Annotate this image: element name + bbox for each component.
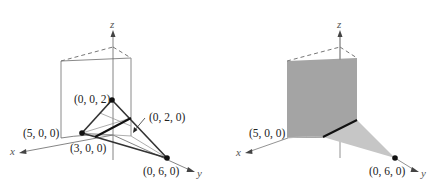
label-point-0-0-2: (0, 0, 2): [74, 94, 110, 106]
label-point-0-6-0: (0, 6, 0): [143, 166, 179, 178]
label-point-5-0-0: (5, 0, 0): [249, 128, 285, 140]
label-point-5-0-0: (5, 0, 0): [23, 128, 59, 140]
axis-label-x: x: [236, 147, 241, 158]
right-figure-3d-region: z x y (5, 0, 0) (0, 6, 0): [218, 0, 436, 189]
left-figure-3d-triangle: z x y (0, 0, 2) (0, 2, 0) (5, 0, 0) (3, …: [0, 0, 218, 189]
y-arrow-icon: [187, 167, 196, 172]
y-arrow-icon: [411, 167, 420, 172]
axis-label-y: y: [197, 168, 202, 179]
point-0-6-0: [164, 155, 170, 161]
z-arrow-icon: [338, 30, 343, 37]
right-figure-graphic: [218, 0, 436, 189]
axis-label-z: z: [110, 19, 114, 30]
x-arrow-icon: [245, 149, 253, 154]
axis-label-x: x: [10, 146, 15, 157]
label-point-0-2-0: (0, 2, 0): [149, 112, 185, 124]
label-point-3-0-0: (3, 0, 0): [70, 143, 106, 155]
point-3-0-0: [79, 130, 85, 136]
z-arrow-icon: [111, 30, 116, 37]
x-arrow-icon: [19, 149, 27, 154]
point-0-6-0: [392, 155, 398, 161]
label-point-0-6-0: (0, 6, 0): [369, 166, 405, 178]
axis-label-z: z: [337, 19, 341, 30]
axis-label-y: y: [421, 168, 426, 179]
